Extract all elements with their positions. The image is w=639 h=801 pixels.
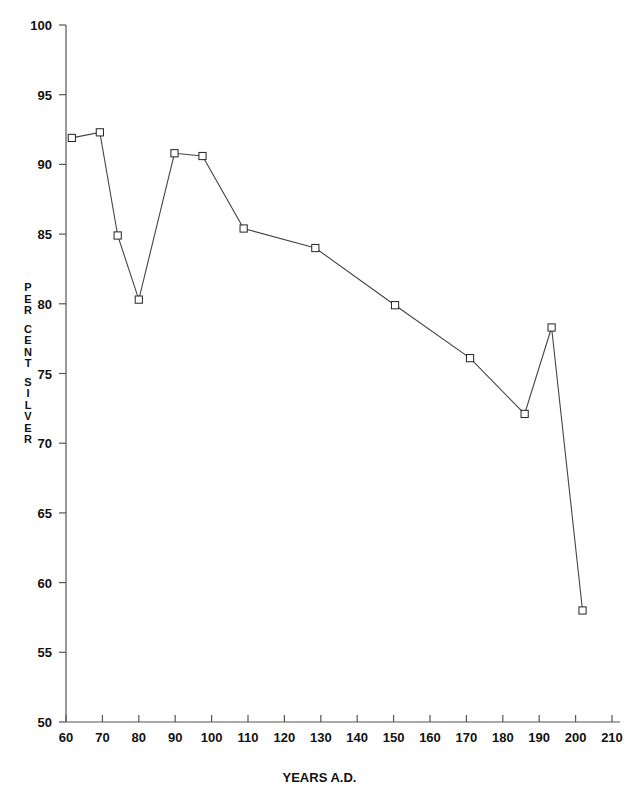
- y-title-letter: I: [20, 388, 36, 400]
- x-axis-tick-label: 60: [46, 730, 86, 745]
- y-axis-tick-label: 60: [18, 575, 52, 590]
- data-point-marker: [114, 232, 121, 239]
- y-axis-tick-label: 55: [18, 645, 52, 660]
- x-axis-ticks: [66, 715, 612, 722]
- data-point-marker: [240, 225, 247, 232]
- data-point-marker: [466, 355, 473, 362]
- data-point-marker: [96, 129, 103, 136]
- x-axis-tick-label: 80: [119, 730, 159, 745]
- data-point-marker: [391, 302, 398, 309]
- y-axis-tick-label: 50: [18, 715, 52, 730]
- y-axis-tick-label: 85: [18, 227, 52, 242]
- y-axis-ticks: [59, 25, 66, 722]
- x-axis-tick-label: 200: [556, 730, 596, 745]
- y-title-letter: V: [20, 411, 36, 423]
- data-point-marker: [521, 410, 528, 417]
- x-axis-tick-label: 210: [592, 730, 632, 745]
- y-title-letter: E: [20, 335, 36, 347]
- plot-area: [0, 0, 639, 801]
- x-axis-tick-label: 180: [483, 730, 523, 745]
- x-axis-tick-label: 110: [228, 730, 268, 745]
- silver-content-line-chart: P E R C E N T S I L V E R 10095908580757…: [0, 0, 639, 801]
- data-point-marker: [68, 134, 75, 141]
- y-axis-tick-label: 90: [18, 157, 52, 172]
- x-axis-tick-label: 70: [82, 730, 122, 745]
- x-axis-tick-label: 130: [301, 730, 341, 745]
- data-point-marker: [199, 152, 206, 159]
- y-axis-tick-label: 80: [18, 296, 52, 311]
- y-title-letter: P: [20, 282, 36, 294]
- x-axis-tick-label: 170: [446, 730, 486, 745]
- data-point-marker: [135, 296, 142, 303]
- y-axis-tick-label: 70: [18, 436, 52, 451]
- data-line-series: [72, 132, 583, 610]
- data-point-markers: [68, 129, 586, 614]
- x-axis-tick-label: 90: [155, 730, 195, 745]
- x-axis-tick-label: 150: [374, 730, 414, 745]
- data-point-marker: [579, 607, 586, 614]
- x-axis-tick-label: 190: [519, 730, 559, 745]
- y-axis-tick-label: 100: [18, 18, 52, 33]
- x-axis-tick-label: 120: [264, 730, 304, 745]
- data-point-marker: [312, 244, 319, 251]
- x-axis-tick-label: 140: [337, 730, 377, 745]
- x-axis-tick-label: 160: [410, 730, 450, 745]
- x-axis-tick-label: 100: [192, 730, 232, 745]
- data-point-marker: [548, 324, 555, 331]
- y-axis-tick-label: 95: [18, 87, 52, 102]
- data-point-marker: [171, 150, 178, 157]
- y-axis-tick-label: 75: [18, 366, 52, 381]
- x-axis-title: YEARS A.D.: [0, 770, 639, 785]
- y-axis-tick-label: 65: [18, 505, 52, 520]
